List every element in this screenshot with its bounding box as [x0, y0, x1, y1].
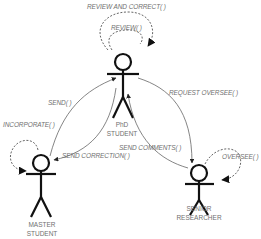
actor-label-line2: STUDENT [27, 230, 58, 237]
edge-send [50, 78, 116, 156]
actor-label-line2: STUDENT [107, 130, 138, 137]
label-send: SEND( ) [48, 99, 72, 107]
actor-label-line1: PhD [116, 121, 129, 128]
actor-head [33, 155, 49, 171]
senior-label-line2: RESEARCHER [176, 214, 221, 221]
label-send-correction: SEND CORRECTION( ) [62, 152, 130, 160]
senior-label-line1: SENIOR [187, 205, 212, 212]
actor-label-line1: MASTER [28, 221, 55, 228]
diagram-canvas: PhD STUDENT MASTER STUDENT SENIOR SENIOR… [0, 0, 261, 239]
label-review-and-correct: REVIEW AND CORRECT( ) [87, 3, 166, 11]
label-send-comments: SEND COMMENTS( ) [119, 144, 181, 152]
actor-phd-student: PhD STUDENT [107, 54, 139, 137]
actor-head [191, 165, 207, 181]
label-oversee: OVERSEE( ) [222, 153, 259, 161]
diagram-svg: PhD STUDENT MASTER STUDENT SENIOR SENIOR… [0, 0, 261, 239]
label-incorporate: INCORPORATE( ) [3, 121, 55, 129]
self-loop-review [109, 30, 142, 50]
self-loop-review-and-correct [100, 12, 153, 50]
label-request-oversee: REQUEST OVERSEE( ) [169, 89, 238, 97]
actor-head [115, 54, 131, 70]
label-review: REVIEW( ) [111, 24, 142, 32]
actor-master-student: MASTER STUDENT [26, 155, 57, 237]
